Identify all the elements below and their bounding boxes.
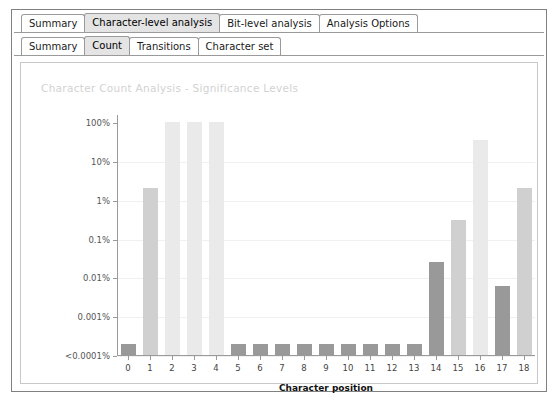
x-axis-tick — [524, 356, 525, 360]
y-axis-tick — [113, 240, 117, 241]
x-axis-tick — [480, 356, 481, 360]
x-axis-tick — [370, 356, 371, 360]
tab-summary[interactable]: Summary — [21, 14, 85, 32]
x-axis-label: 12 — [387, 363, 398, 373]
y-axis-tick — [113, 278, 117, 279]
tab-bit-level-analysis[interactable]: Bit-level analysis — [219, 14, 320, 32]
y-axis-label: 0.1% — [88, 235, 110, 245]
y-axis-tick — [113, 356, 117, 357]
x-axis-label: 6 — [257, 363, 262, 373]
x-axis-label: 9 — [323, 363, 328, 373]
y-axis-tick — [113, 201, 117, 202]
bar-position-11 — [363, 344, 378, 355]
subtab-summary[interactable]: Summary — [21, 37, 85, 55]
bar-position-7 — [275, 344, 290, 355]
x-axis-label: 18 — [519, 363, 530, 373]
x-axis-tick — [238, 356, 239, 360]
bar-position-3 — [187, 122, 202, 355]
subtab-character-set[interactable]: Character set — [198, 37, 282, 55]
y-axis-label: 0.01% — [83, 273, 110, 283]
subtab-transitions[interactable]: Transitions — [129, 37, 199, 55]
bar-position-0 — [121, 344, 136, 355]
bar-position-9 — [319, 344, 334, 355]
chart-title: Character Count Analysis - Significance … — [41, 82, 298, 94]
y-axis-tick — [113, 317, 117, 318]
bar-position-2 — [165, 122, 180, 355]
y-axis-label: <0.0001% — [65, 351, 110, 361]
x-axis-label: 10 — [343, 363, 354, 373]
x-axis-title: Character position — [117, 383, 535, 393]
bar-position-1 — [143, 188, 158, 355]
bar-position-17 — [495, 286, 510, 355]
bar-position-4 — [209, 122, 224, 355]
primary-tab-strip: SummaryCharacter-level analysisBit-level… — [12, 13, 546, 33]
bar-position-10 — [341, 344, 356, 355]
y-axis-label: 10% — [91, 157, 110, 167]
x-axis-tick — [392, 356, 393, 360]
x-axis-label: 2 — [169, 363, 174, 373]
x-axis-tick — [216, 356, 217, 360]
x-axis-tick — [436, 356, 437, 360]
x-axis-label: 5 — [235, 363, 240, 373]
bar-position-16 — [473, 140, 488, 355]
x-axis-label: 15 — [453, 363, 464, 373]
secondary-tab-strip: SummaryCountTransitionsCharacter set — [12, 36, 546, 56]
x-axis-tick — [326, 356, 327, 360]
x-axis-tick — [348, 356, 349, 360]
x-axis-tick — [128, 356, 129, 360]
bar-position-15 — [451, 220, 466, 355]
x-axis-label: 4 — [213, 363, 218, 373]
y-axis-label: 1% — [97, 196, 111, 206]
x-axis-label: 3 — [191, 363, 196, 373]
subtab-count[interactable]: Count — [84, 36, 130, 55]
x-axis-tick — [502, 356, 503, 360]
x-axis-label: 13 — [409, 363, 420, 373]
chart-panel: Character Count Analysis - Significance … — [20, 62, 538, 384]
bar-position-12 — [385, 344, 400, 355]
x-axis-tick — [194, 356, 195, 360]
bar-position-18 — [517, 188, 532, 355]
x-axis-label: 1 — [147, 363, 152, 373]
y-axis-line — [117, 115, 118, 356]
bar-position-14 — [429, 262, 444, 355]
x-axis-label: 7 — [279, 363, 284, 373]
x-axis-tick — [282, 356, 283, 360]
x-axis-label: 0 — [125, 363, 130, 373]
bar-chart-plot: 100%10%1%0.1%0.01%0.001%<0.0001% 0123456… — [117, 123, 535, 356]
tab-character-level-analysis[interactable]: Character-level analysis — [84, 13, 220, 32]
tab-analysis-options[interactable]: Analysis Options — [319, 14, 418, 32]
analysis-window: SummaryCharacter-level analysisBit-level… — [11, 9, 547, 392]
bar-position-13 — [407, 344, 422, 355]
y-axis-label: 100% — [86, 118, 110, 128]
bar-position-8 — [297, 344, 312, 355]
x-axis-tick — [304, 356, 305, 360]
y-axis-tick — [113, 162, 117, 163]
x-axis-label: 16 — [475, 363, 486, 373]
x-axis-tick — [172, 356, 173, 360]
x-axis-tick — [260, 356, 261, 360]
x-axis-tick — [150, 356, 151, 360]
x-axis-label: 17 — [497, 363, 508, 373]
bar-position-6 — [253, 344, 268, 355]
x-axis-label: 11 — [365, 363, 376, 373]
bar-position-5 — [231, 344, 246, 355]
x-axis-tick — [414, 356, 415, 360]
y-axis-label: 0.001% — [78, 312, 110, 322]
x-axis-tick — [458, 356, 459, 360]
x-axis-label: 14 — [431, 363, 442, 373]
x-axis-label: 8 — [301, 363, 306, 373]
y-axis-tick — [113, 123, 117, 124]
